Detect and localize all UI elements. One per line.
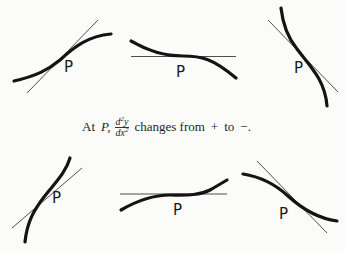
point-label-p-1: P <box>64 58 73 76</box>
figure-2: P <box>131 41 236 81</box>
tangent-line-4 <box>12 168 82 228</box>
point-label-p-5: P <box>173 201 182 219</box>
point-label-p-6: P <box>279 205 288 223</box>
second-derivative-fraction: d2y dx2 <box>115 117 130 138</box>
fraction-denominator: dx2 <box>116 128 129 138</box>
caption: At P, d2y dx2 changes from + to −. <box>82 112 251 142</box>
point-label-p-4: P <box>52 189 61 207</box>
caption-sign-to: −. <box>240 119 251 135</box>
tangent-line-6 <box>257 161 327 233</box>
figure-4: P <box>12 158 82 242</box>
figure-6: P <box>243 161 337 233</box>
caption-point: P, <box>101 119 111 135</box>
figure-3: P <box>268 8 338 106</box>
figure-1: P <box>14 20 111 93</box>
point-label-p-2: P <box>176 63 185 81</box>
point-label-p-3: P <box>294 59 303 77</box>
caption-changes: changes from <box>134 119 204 135</box>
caption-sign-from: + <box>211 119 218 135</box>
curve-3 <box>281 8 327 106</box>
figure-5: P <box>120 180 227 219</box>
curve-4 <box>25 158 70 242</box>
curve-1 <box>14 34 111 81</box>
curve-6 <box>243 174 337 221</box>
caption-prefix: At <box>82 119 95 135</box>
caption-to: to <box>224 119 234 135</box>
